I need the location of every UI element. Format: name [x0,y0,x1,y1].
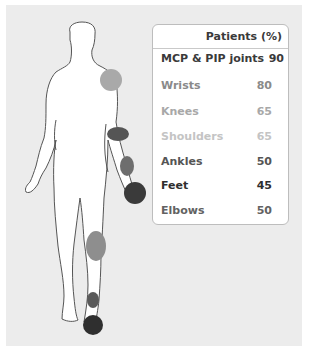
table-row: MCP & PIP joints 90 [153,52,290,76]
hand-marker [124,182,146,204]
table-row: Feet 45 [153,179,290,203]
table-row: Knees 65 [153,105,290,129]
percent-value: 50 [257,204,272,217]
table-header: Patients (%) [153,25,288,49]
body-outline [25,22,134,323]
ankle-marker [87,292,99,308]
percent-value: 50 [257,155,272,168]
table-row: Ankles 50 [153,155,290,179]
percent-value: 90 [269,52,284,65]
foot-marker [83,315,103,335]
percent-value: 80 [257,79,272,92]
joint-label: Knees [161,105,199,118]
joint-label: Elbows [161,204,204,217]
wrist-marker [120,156,134,176]
joint-label: Wrists [161,79,201,92]
table-row: Wrists 80 [153,79,290,103]
joint-label: Ankles [161,155,202,168]
knee-marker [86,231,106,261]
percent-value: 65 [257,130,272,143]
percent-value: 45 [257,179,272,192]
patients-table: Patients (%) MCP & PIP joints 90 Wrists … [152,24,289,225]
joint-label: Feet [161,179,188,192]
table-row: Elbows 50 [153,204,290,228]
table-row: Shoulders 65 [153,130,290,154]
elbow-marker [107,127,129,141]
percent-value: 65 [257,105,272,118]
joint-label: MCP & PIP joints [161,52,264,65]
shoulder-marker [100,69,122,91]
joint-label: Shoulders [161,130,223,143]
